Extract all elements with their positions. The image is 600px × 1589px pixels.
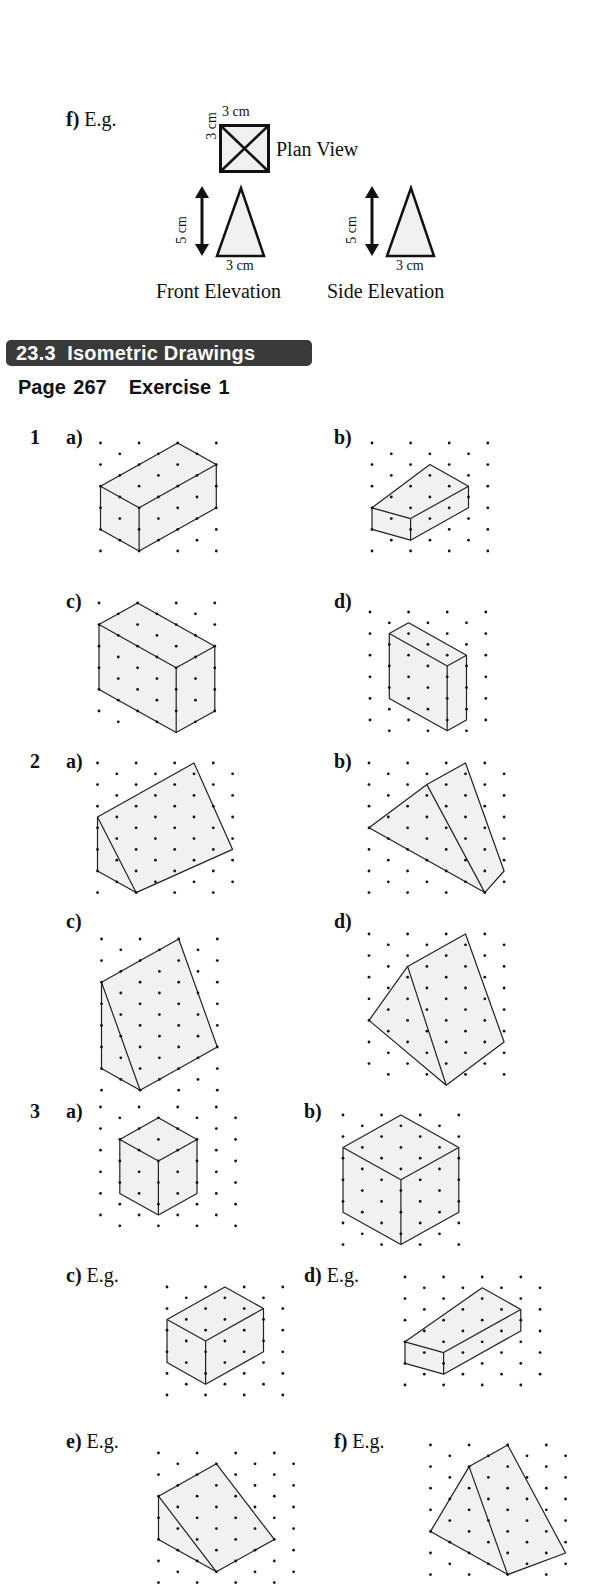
q2a-figure: [96, 762, 234, 894]
q2d-figure: [368, 933, 506, 1086]
q3d-figure: [404, 1276, 542, 1387]
q1d-figure: [369, 611, 488, 733]
q1b-figure: [371, 442, 490, 553]
q2b-figure: [368, 762, 506, 894]
q1c-figure: [98, 602, 217, 733]
q3c-figure: [166, 1286, 285, 1397]
q1a-isometric-drawing: [0, 0, 600, 1589]
q3f-figure: [429, 1444, 567, 1576]
q3a-figure: [99, 1106, 237, 1228]
q2c-figure: [100, 938, 219, 1092]
q1a-figure: [99, 442, 218, 553]
q3e-figure: [157, 1452, 295, 1584]
q3b-figure: [342, 1114, 461, 1246]
